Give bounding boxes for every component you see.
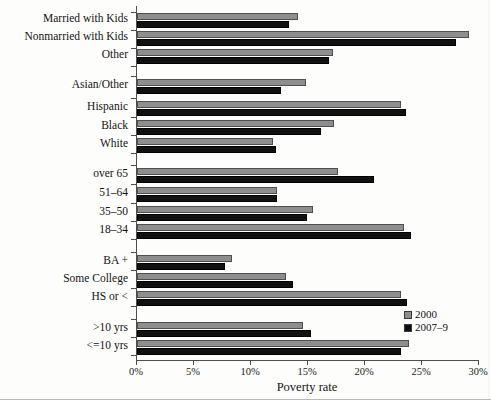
bar-2007-9 (137, 21, 289, 28)
chart-page: Married with KidsNonmarried with KidsOth… (0, 0, 491, 411)
bar-2000 (137, 224, 404, 231)
x-axis-tick (421, 360, 422, 365)
y-axis-tick (131, 66, 136, 67)
y-axis-tick (131, 98, 136, 99)
y-axis-tick (131, 76, 136, 77)
y-axis-tick (131, 165, 136, 166)
y-axis-category-label: Asian/Other (72, 78, 128, 90)
bar-2000 (137, 255, 232, 262)
scan-edge-bottom (0, 399, 491, 411)
bar-2007-9 (137, 195, 277, 202)
x-axis-tick (307, 360, 308, 365)
y-axis-category-label: 51–64 (99, 186, 128, 198)
y-axis-category-label: Married with Kids (43, 12, 128, 24)
y-axis-category-label: over 65 (93, 167, 128, 179)
bar-2007-9 (137, 348, 401, 355)
y-axis-tick (131, 117, 136, 118)
bar-2000 (137, 79, 306, 86)
y-axis-tick (131, 355, 136, 356)
y-axis-category-label: >10 yrs (93, 321, 128, 333)
bar-2000 (137, 138, 273, 145)
x-axis-title: Poverty rate (136, 380, 478, 395)
bar-2007-9 (137, 176, 374, 183)
legend-swatch-2007-9-icon (404, 324, 412, 332)
bar-2007-9 (137, 57, 329, 64)
y-axis-tick (131, 288, 136, 289)
legend-entry-2007-9: 2007–9 (404, 321, 448, 334)
bar-2000 (137, 49, 333, 56)
bar-2000 (137, 187, 277, 194)
y-axis-tick (131, 203, 136, 204)
x-axis-tick-label: 15% (297, 366, 316, 377)
y-axis-category-label: White (100, 137, 128, 149)
x-axis-tick-label: 0% (129, 366, 143, 377)
x-axis-tick-label: 5% (186, 366, 200, 377)
bar-2000 (137, 206, 313, 213)
x-axis-tick-label: 30% (468, 366, 487, 377)
y-axis-tick (131, 48, 136, 49)
y-axis-category-label: 18–34 (99, 223, 128, 235)
y-axis-tick (131, 239, 136, 240)
bar-2007-9 (137, 281, 293, 288)
legend: 2000 2007–9 (404, 308, 448, 334)
y-axis-tick (131, 184, 136, 185)
bar-2000 (137, 291, 401, 298)
legend-label-2007-9: 2007–9 (415, 321, 448, 334)
x-axis-tick-label: 10% (240, 366, 259, 377)
legend-swatch-2000-icon (404, 311, 412, 319)
x-axis-tick (250, 360, 251, 365)
y-axis-tick (131, 252, 136, 253)
x-axis-tick-label: 20% (354, 366, 373, 377)
y-axis-category-label: HS or < (91, 290, 128, 302)
y-axis-tick (131, 153, 136, 154)
bar-2000 (137, 340, 409, 347)
bar-rows (136, 6, 478, 360)
bar-2007-9 (137, 87, 281, 94)
x-axis-tick-label: 25% (411, 366, 430, 377)
bar-2000 (137, 120, 334, 127)
y-axis-tick (131, 135, 136, 136)
y-axis-category-label: Nonmarried with Kids (25, 30, 128, 42)
legend-label-2000: 2000 (415, 308, 437, 321)
bar-2007-9 (137, 146, 276, 153)
y-axis-category-label: 35–50 (99, 205, 128, 217)
bar-2000 (137, 31, 469, 38)
y-axis-category-label: Other (102, 48, 128, 60)
bar-2000 (137, 13, 298, 20)
legend-entry-2000: 2000 (404, 308, 448, 321)
bar-2000 (137, 101, 401, 108)
bar-2007-9 (137, 214, 307, 221)
y-axis-tick (131, 306, 136, 307)
y-axis-tick (131, 30, 136, 31)
x-axis-tick (364, 360, 365, 365)
y-axis-category-label: BA + (103, 254, 128, 266)
y-axis-tick (131, 319, 136, 320)
bar-2007-9 (137, 330, 311, 337)
bar-2007-9 (137, 263, 225, 270)
plot-area: 0%5%10%15%20%25%30% (136, 6, 478, 360)
y-axis-tick (131, 337, 136, 338)
y-axis-labels: Married with KidsNonmarried with KidsOth… (0, 6, 132, 360)
y-axis-category-label: <=10 yrs (87, 339, 128, 351)
x-axis-tick (193, 360, 194, 365)
bar-2000 (137, 322, 303, 329)
bar-2007-9 (137, 299, 407, 306)
bar-2007-9 (137, 232, 411, 239)
y-axis-tick (131, 270, 136, 271)
bar-2000 (137, 168, 338, 175)
bar-2007-9 (137, 109, 406, 116)
y-axis-category-label: Black (101, 119, 128, 131)
x-axis-tick (136, 360, 137, 365)
bar-2007-9 (137, 39, 456, 46)
x-axis-tick (478, 360, 479, 365)
y-axis-tick (131, 12, 136, 13)
y-axis-category-label: Hispanic (87, 100, 128, 112)
bar-2000 (137, 273, 286, 280)
bar-2007-9 (137, 128, 321, 135)
y-axis-category-label: Some College (63, 272, 128, 284)
y-axis-tick (131, 221, 136, 222)
